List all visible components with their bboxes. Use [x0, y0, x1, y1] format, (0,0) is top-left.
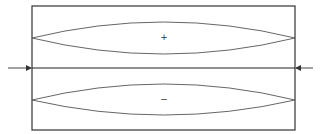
plus-sign-label: + [160, 32, 168, 42]
minus-sign-label: − [160, 94, 168, 104]
charge-diagram: + − [0, 0, 320, 134]
